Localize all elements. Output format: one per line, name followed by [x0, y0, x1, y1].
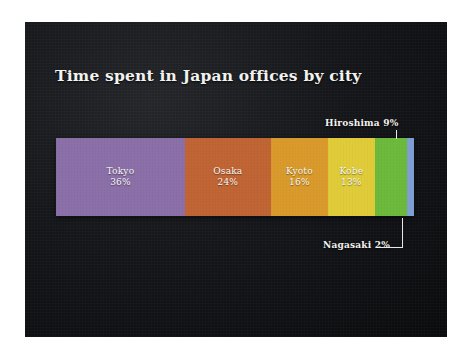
segment-value-tokyo: 36% [110, 177, 131, 189]
stacked-bar-chart: Tokyo 36% Osaka 24% Kyoto 16% Kobe 13% [56, 138, 414, 216]
bar-segment-nagasaki[interactable] [407, 138, 414, 216]
stacked-bar: Tokyo 36% Osaka 24% Kyoto 16% Kobe 13% [56, 138, 414, 216]
leader-line-nagasaki-vertical [402, 218, 403, 248]
bar-segment-hiroshima[interactable] [375, 138, 407, 216]
segment-value-kobe: 13% [341, 177, 362, 189]
leader-line-nagasaki-horizontal [380, 247, 402, 248]
bar-segment-osaka[interactable]: Osaka 24% [185, 138, 271, 216]
bar-segment-kyoto[interactable]: Kyoto 16% [271, 138, 328, 216]
segment-label-tokyo: Tokyo [107, 166, 135, 178]
chart-title: Time spent in Japan offices by city [55, 66, 362, 85]
presentation-slide: Time spent in Japan offices by city Toky… [25, 22, 447, 337]
segment-value-osaka: 24% [218, 177, 239, 189]
leader-line-hiroshima [396, 130, 397, 139]
segment-value-kyoto: 16% [289, 177, 310, 189]
annotation-nagasaki: Nagasaki 2% [323, 240, 390, 250]
bar-segment-tokyo[interactable]: Tokyo 36% [56, 138, 185, 216]
slide-photo: Time spent in Japan offices by city Toky… [0, 0, 470, 355]
segment-label-kobe: Kobe [339, 166, 363, 178]
bar-segment-kobe[interactable]: Kobe 13% [328, 138, 375, 216]
segment-label-osaka: Osaka [213, 166, 242, 178]
annotation-hiroshima: Hiroshima 9% [325, 118, 398, 128]
segment-label-kyoto: Kyoto [286, 166, 313, 178]
